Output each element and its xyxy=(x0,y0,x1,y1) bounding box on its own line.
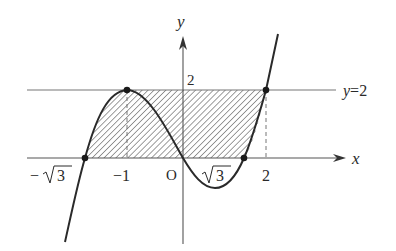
x-axis-label: x xyxy=(351,149,360,168)
point-local-max xyxy=(124,87,131,94)
cubic-function-diagram: y x 2 y=2 O − 3 −1 3 2 xyxy=(0,0,396,251)
shaded-region xyxy=(80,88,270,160)
x-tick-neg-root3: − 3 xyxy=(30,166,72,184)
x-tick-2: 2 xyxy=(262,167,270,184)
line-y2-label: y=2 xyxy=(341,82,367,100)
svg-text:3: 3 xyxy=(57,167,65,184)
point-neg-root3 xyxy=(82,155,89,162)
y-tick-2: 2 xyxy=(187,72,195,88)
x-tick-root3: 3 xyxy=(202,166,231,184)
y-axis-label: y xyxy=(175,12,185,31)
origin-label: O xyxy=(166,167,177,183)
x-tick-neg-1: −1 xyxy=(113,167,130,184)
svg-text:3: 3 xyxy=(216,167,224,184)
point-2-2 xyxy=(263,87,270,94)
point-root3 xyxy=(241,155,248,162)
svg-text:−: − xyxy=(30,167,39,184)
